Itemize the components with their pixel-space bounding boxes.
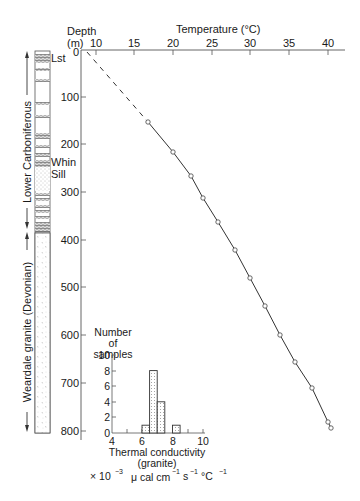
chart-canvas: Temperature (°C) 10 15 20 25 30 35 40 De…: [0, 0, 360, 501]
depth-tick-label: 500: [61, 281, 79, 293]
hist-y-tick: 10: [98, 349, 110, 361]
units-prefix: × 10: [90, 470, 111, 482]
hist-bar: [157, 402, 165, 433]
units-exp3: −1: [219, 468, 227, 475]
hist-y-tick: 6: [104, 380, 110, 392]
depth-tick-label: 600: [61, 329, 79, 341]
data-point: [326, 420, 330, 424]
data-point: [278, 333, 282, 337]
hist-bar: [173, 425, 181, 433]
data-point: [216, 220, 220, 224]
data-point: [329, 426, 333, 430]
label-limestone: Lst: [51, 52, 66, 64]
temp-tick-label: 40: [322, 37, 334, 49]
depth-ticks: 0 100 200 300 400 500 600 700 800: [61, 46, 86, 437]
temp-tick-label: 20: [167, 37, 179, 49]
data-point: [293, 360, 297, 364]
hist-units: × 10 −3 μ cal cm −1 s −1 °C −1: [90, 468, 227, 483]
data-point: [171, 150, 175, 154]
data-point: [310, 386, 314, 390]
hist-bar: [142, 425, 150, 433]
data-point: [146, 120, 150, 124]
extrapolation-dashed-line: [87, 52, 148, 122]
arrow-down-icon: [25, 222, 29, 229]
depth-tick-label: 700: [61, 377, 79, 389]
data-point: [248, 276, 252, 280]
arrow-down-icon: [25, 425, 29, 432]
temperature-axis-title: Temperature (°C): [176, 23, 260, 35]
depth-tick-label: 100: [61, 91, 79, 103]
depth-axis-title: Depth: [67, 25, 96, 37]
depth-tick-label: 800: [61, 425, 79, 437]
label-whin: Whin: [51, 156, 76, 168]
hist-xlabel-line2: (granite): [137, 457, 176, 469]
temp-tick-label: 10: [90, 37, 102, 49]
temp-ticks: 10 15 20 25 30 35 40: [90, 37, 334, 55]
data-point: [233, 248, 237, 252]
hist-y-tick: 4: [104, 396, 110, 408]
temp-tick-label: 35: [283, 37, 295, 49]
depth-tick-label: 300: [61, 186, 79, 198]
hist-y-tick: 8: [104, 365, 110, 377]
units-s: s: [183, 470, 188, 482]
temperature-profile: [87, 52, 333, 430]
depth-tick-label: 0: [73, 46, 79, 58]
depth-axis: Depth (m) 0 100 200 300 400 500 600 700 …: [61, 25, 97, 440]
temp-tick-label: 30: [244, 37, 256, 49]
hist-y-tick: 2: [104, 411, 110, 423]
depth-tick-label: 200: [61, 138, 79, 150]
depth-tick-label: 400: [61, 234, 79, 246]
measured-profile-line: [148, 122, 331, 428]
arrow-up-icon: [25, 232, 29, 239]
label-sill: Sill: [51, 168, 66, 180]
arrow-up-icon: [25, 51, 29, 58]
temp-tick-label: 15: [128, 37, 140, 49]
units-exp: −3: [115, 468, 123, 475]
hist-bar: [150, 371, 158, 433]
units-c: °C: [201, 470, 213, 482]
data-point: [201, 196, 205, 200]
data-markers: [146, 120, 333, 430]
units-exp1: −1: [172, 468, 180, 475]
data-point: [189, 174, 193, 178]
label-weardale-granite: Weardale granite (Devonian): [21, 262, 33, 402]
label-lower-carboniferous: Lower Carboniferous: [21, 100, 33, 203]
temperature-axis: Temperature (°C) 10 15 20 25 30 35 40: [81, 23, 345, 55]
temp-tick-label: 25: [206, 37, 218, 49]
units-exp2: −1: [190, 468, 198, 475]
histogram-bars: [142, 371, 180, 433]
conductivity-histogram: Number of samples 10 8 6 4 2 0: [90, 326, 227, 483]
data-point: [263, 304, 267, 308]
units-mu: μ cal cm: [131, 471, 171, 483]
